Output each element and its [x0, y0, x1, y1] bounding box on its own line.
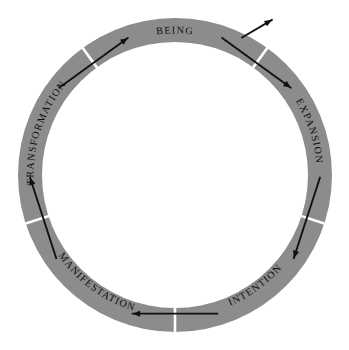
cycle-diagram-canvas: BEING EXPANSION INTENTION MANIFESTATION …: [0, 0, 349, 350]
stage-label-being: BEING: [156, 24, 195, 36]
ring-band-group: [18, 18, 332, 332]
cycle-diagram: BEING EXPANSION INTENTION MANIFESTATION …: [0, 0, 349, 350]
outward-arrow-expansion: [242, 20, 272, 38]
ring-band: [18, 18, 332, 332]
